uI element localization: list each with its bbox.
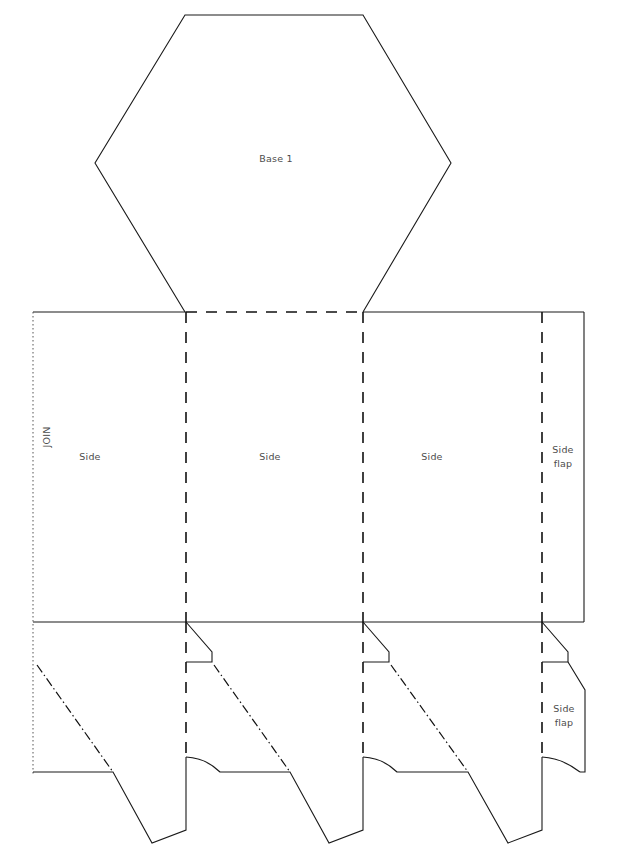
flap1-diagonal-fold (37, 665, 113, 772)
hexagon-base-outline (95, 15, 451, 312)
flap3-cut-outline (363, 757, 542, 843)
flap1-cut-outline (33, 757, 186, 843)
net-drawing (0, 0, 622, 852)
flap2-top-notch (186, 622, 212, 662)
flap3-top-notch (363, 622, 389, 662)
flap2-cut-outline (186, 757, 363, 843)
side-flap-right-cut (568, 662, 585, 772)
side-flap-top-notch (542, 622, 568, 662)
side-flap-bottom-curve (542, 757, 580, 772)
flap2-diagonal-fold (214, 665, 290, 772)
flap3-diagonal-fold (391, 665, 468, 772)
net-template-page: Base 1 Side Side Side Side flap Side fla… (0, 0, 622, 852)
